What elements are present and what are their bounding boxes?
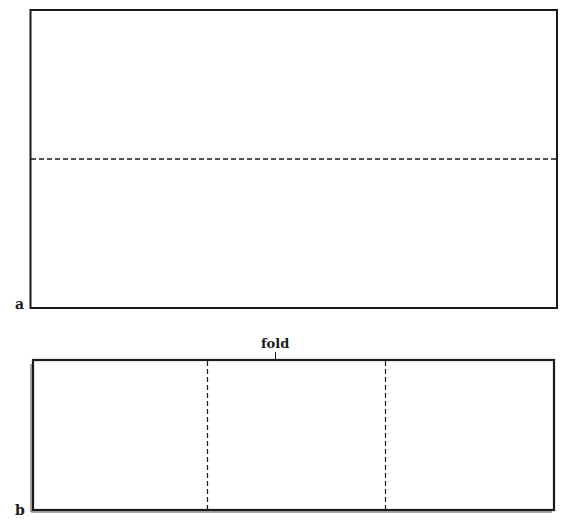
panel-b-back-layer [31,364,552,512]
panel-a [31,10,558,308]
panel-a-sheet [31,10,558,308]
panel-b [31,352,554,512]
panel-b-label: b [15,503,25,517]
fold-annotation: fold [261,337,289,351]
diagram-canvas [0,0,573,532]
panel-a-label: a [15,297,24,311]
panel-b-sheet [33,360,554,510]
